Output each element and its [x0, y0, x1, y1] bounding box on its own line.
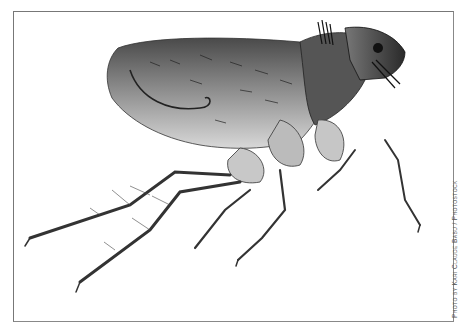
photo-credit: Photo by Kari Claude Babu / Photostock — [451, 180, 458, 318]
flea-eye — [373, 43, 383, 53]
flea-illustration — [0, 0, 468, 333]
